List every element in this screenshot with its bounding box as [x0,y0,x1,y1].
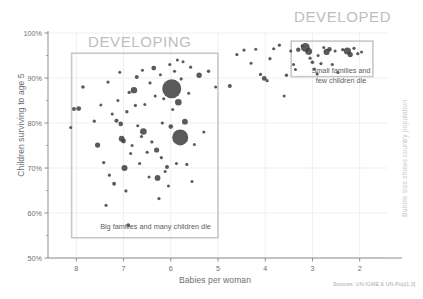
svg-text:3: 3 [310,264,314,273]
svg-text:90%: 90% [28,74,43,83]
svg-text:100%: 100% [24,29,43,38]
group-caption-developed-line2: few children die [296,76,386,86]
svg-text:60%: 60% [28,209,43,218]
group-caption-developed: Small families and few children die [296,66,386,86]
y-axis-title: Children surviving to age 5 [16,50,26,200]
svg-text:5: 5 [216,264,220,273]
bubble-size-note: Bubble size shows country population [401,54,408,264]
bubble-chart: 50%60%70%80%90%100%8765432 DEVELOPING DE… [0,0,423,299]
svg-text:50%: 50% [28,254,43,263]
svg-text:80%: 80% [28,119,43,128]
svg-text:7: 7 [122,264,126,273]
svg-text:2: 2 [358,264,362,273]
group-heading-developed: DEVELOPED [294,8,391,25]
source-note: Sources: UN-IGME & UN-Pop[1,3] [333,281,415,287]
group-caption-developing: Big families and many children die [72,222,239,232]
x-axis-title: Babies per woman [155,275,275,285]
svg-text:8: 8 [74,264,78,273]
svg-text:6: 6 [169,264,173,273]
svg-text:4: 4 [263,264,267,273]
plot-area: 50%60%70%80%90%100%8765432 [0,0,423,299]
group-caption-developed-line1: Small families and [296,66,386,76]
svg-text:70%: 70% [28,164,43,173]
group-heading-developing: DEVELOPING [88,33,192,50]
